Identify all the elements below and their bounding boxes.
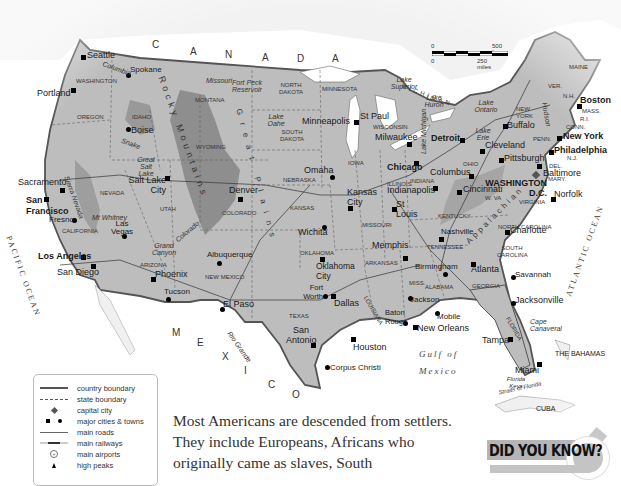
legend-row-main-roads: main roads <box>38 427 114 437</box>
body-paragraph: Most Americans are descended from settle… <box>173 410 453 473</box>
state-north-dakota: NORTH DAKOTA <box>276 82 306 96</box>
state-kentucky: KENTUCKY <box>438 213 471 219</box>
city-marker <box>330 175 335 180</box>
map-legend: country boundary state boundary capital … <box>33 374 158 486</box>
city-marker <box>443 272 448 277</box>
scale-bar-graphic <box>432 51 508 56</box>
state-new-jersey: N.J. <box>567 155 578 161</box>
state-texas: TEXAS <box>289 313 309 319</box>
city-cleveland: Cleveland <box>485 141 525 150</box>
city-marker <box>537 164 542 169</box>
legend-label: capital city <box>77 406 112 415</box>
city-st-paul: St Paul <box>360 112 389 121</box>
scale-km-start: 0 <box>431 43 434 49</box>
legend-row-country-boundary: country boundary <box>38 383 135 393</box>
railway-line-icon <box>38 438 70 448</box>
state-virginia: VIRGINIA <box>519 199 545 205</box>
label-lake-ontario: Lake Ontario <box>474 99 498 113</box>
city-marker <box>407 142 412 147</box>
state-new-york: NEW YORK <box>516 106 544 120</box>
state-missouri: MISSOURI <box>362 222 392 228</box>
capital-city-icon <box>38 405 70 415</box>
state-west-virginia: W. VA <box>485 195 501 201</box>
city-mobile: Mobile <box>437 313 461 321</box>
city-milwaukee: Milwaukee <box>375 133 418 142</box>
state-utah: UTAH <box>160 206 176 212</box>
legend-row-major-cities: major cities & towns <box>38 416 144 426</box>
city-marker <box>217 261 222 266</box>
state-iowa: IOWA <box>348 160 364 166</box>
city-indianapolis: Indianapolis <box>387 186 435 195</box>
city-fort-worth: Fort Worth <box>297 283 323 301</box>
label-grand-canyon: Grand Canyon <box>151 242 177 256</box>
gulf-label-1: Gulf of <box>419 350 458 359</box>
state-nebraska: NEBRASKA <box>283 177 316 183</box>
city-san-diego: San Diego <box>57 268 99 277</box>
city-tampa: Tampa <box>482 336 509 345</box>
city-marker <box>460 138 465 143</box>
label-lake-huron: Lake Huron <box>422 94 446 108</box>
city-philadelphia: Philadelphia <box>554 146 607 155</box>
state-indiana: INDIANA <box>410 178 434 184</box>
scale-mi-end: 250 miles <box>477 58 491 70</box>
city-baton-rouge: Baton Rouge <box>385 308 409 326</box>
state-mississippi: MISS. <box>409 280 425 286</box>
city-kansas-city: Kansas City <box>347 187 375 207</box>
state-oregon: OREGON <box>77 114 104 120</box>
country-label-cuba: CUBA <box>536 405 555 412</box>
legend-label: high peaks <box>77 461 113 470</box>
city-memphis: Memphis <box>372 241 409 250</box>
city-marker <box>81 55 86 60</box>
state-nevada: NEVADA <box>100 190 124 196</box>
peak-triangle-icon <box>38 460 70 470</box>
city-marker <box>403 256 408 261</box>
label-cape-canaveral: Cape Canaveral <box>530 318 566 332</box>
city-boston: Boston <box>580 96 611 105</box>
state-arkansas: ARKANSAS <box>365 260 398 266</box>
city-spokane: Spokane <box>130 66 162 74</box>
city-houston: Houston <box>353 343 387 352</box>
city-wichita: Wichita <box>298 228 328 237</box>
city-miami: Miami <box>515 366 539 375</box>
did-you-know-content-bar <box>490 465 590 473</box>
city-seattle: Seattle <box>87 51 115 60</box>
state-massachusetts: MASS. <box>582 108 601 114</box>
city-norfolk: Norfolk <box>554 190 583 199</box>
state-north-carolina: NORTH CAROLINA <box>498 224 552 230</box>
city-denver: Denver <box>229 186 258 195</box>
city-phoenix: Phoenix <box>155 270 188 279</box>
state-vermont: VER. <box>548 83 562 89</box>
label-lake-erie: Lake Erie <box>475 127 491 141</box>
city-corpus-christi: Corpus Christi <box>330 364 381 372</box>
state-arizona: ARIZONA <box>140 262 167 268</box>
city-las-vegas: Las Vegas <box>107 220 137 236</box>
state-wyoming: WYOMING <box>196 144 226 150</box>
city-oklahoma-city: Oklahoma City <box>316 261 350 281</box>
legend-label: main railways <box>77 439 122 448</box>
legend-row-state-boundary: state boundary <box>38 394 127 404</box>
legend-row-main-railways: main railways <box>38 438 122 448</box>
state-georgia: GEORGIA <box>472 283 500 289</box>
legend-row-capital-city: capital city <box>38 405 112 415</box>
state-wisconsin: WISCONSIN <box>373 124 408 130</box>
city-minneapolis: Minneapolis <box>302 117 350 126</box>
city-albuquerque: Albuquerque <box>207 251 252 259</box>
state-idaho: IDAHO <box>132 114 151 120</box>
state-south-dakota: SOUTH DAKOTA <box>277 129 307 143</box>
country-label-bahamas: THE BAHAMAS <box>555 350 605 357</box>
state-california: CALIFORNIA <box>62 228 98 234</box>
city-buffalo: Buffalo <box>507 121 535 130</box>
city-marker <box>238 197 243 202</box>
city-dallas: Dallas <box>334 299 359 308</box>
city-marker <box>60 188 65 193</box>
state-oklahoma: OKLAHOMA <box>300 250 334 256</box>
state-maryland: MARY. <box>548 176 566 182</box>
city-san-francisco: San Francisco <box>26 195 66 217</box>
state-washington: WASHINGTON <box>76 78 117 84</box>
state-tennessee: TENNESSEE <box>427 244 463 250</box>
label-great-salt-lake: Great Salt Lake <box>135 156 157 177</box>
legend-label: country boundary <box>77 384 135 393</box>
state-minnesota: MINNESOTA <box>322 86 357 92</box>
did-you-know-title: DID YOU KNOW? <box>489 442 602 459</box>
state-kansas: KANSAS <box>290 205 314 211</box>
